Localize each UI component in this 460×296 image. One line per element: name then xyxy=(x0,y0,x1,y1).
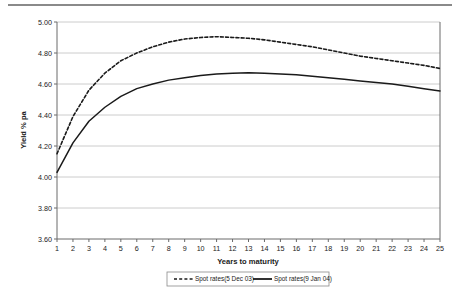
y-tick-label: 4.20 xyxy=(38,142,52,151)
chart-svg: 3.603.804.004.204.404.604.805.00 1234567… xyxy=(0,0,460,296)
series-line-2 xyxy=(57,73,440,173)
x-tick-label: 9 xyxy=(183,244,187,253)
y-tick-label: 5.00 xyxy=(38,18,52,27)
x-tick-label: 4 xyxy=(103,244,107,253)
legend-label-2: Spot rates(9 Jan 04) xyxy=(274,275,332,283)
series-line-1 xyxy=(57,37,440,154)
x-tick-label: 23 xyxy=(404,244,412,253)
x-tick-label: 11 xyxy=(213,244,220,253)
x-tick-label: 18 xyxy=(324,244,332,253)
x-tick-label: 6 xyxy=(135,244,139,253)
x-axis-title: Years to maturity xyxy=(217,257,279,266)
plot-frame xyxy=(57,22,440,239)
y-axis-title: Yield % pa xyxy=(19,110,28,148)
x-tick-label: 21 xyxy=(372,244,380,253)
x-tick-labels: 1234567891011121314151617181920212223242… xyxy=(55,244,444,253)
x-tick-label: 12 xyxy=(229,244,237,253)
y-tick-label: 4.40 xyxy=(38,111,52,120)
legend-label-1: Spot rates(5 Dec 03) xyxy=(195,275,254,283)
y-tick-label: 4.00 xyxy=(38,173,52,182)
x-tick-label: 5 xyxy=(119,244,123,253)
x-tick-label: 8 xyxy=(167,244,171,253)
x-tick-label: 10 xyxy=(197,244,205,253)
x-tick-label: 7 xyxy=(151,244,155,253)
legend: Spot rates(5 Dec 03)Spot rates(9 Jan 04) xyxy=(167,272,332,286)
y-tick-label: 3.60 xyxy=(38,235,52,244)
x-tick-label: 20 xyxy=(356,244,364,253)
legend-entries: Spot rates(5 Dec 03)Spot rates(9 Jan 04) xyxy=(174,275,332,283)
x-tick-label: 25 xyxy=(436,244,444,253)
yield-curve-chart: 3.603.804.004.204.404.604.805.00 1234567… xyxy=(0,0,460,296)
y-tick-labels: 3.603.804.004.204.404.604.805.00 xyxy=(38,18,52,244)
y-tick-label: 4.60 xyxy=(38,80,52,89)
x-tick-label: 3 xyxy=(87,244,91,253)
x-tick-label: 13 xyxy=(245,244,253,253)
x-tick-label: 2 xyxy=(71,244,75,253)
x-tick-label: 1 xyxy=(55,244,59,253)
gridlines xyxy=(57,22,440,208)
x-tick-label: 17 xyxy=(308,244,316,253)
x-tick-label: 19 xyxy=(340,244,348,253)
x-tick-label: 16 xyxy=(292,244,300,253)
x-tick-label: 24 xyxy=(420,244,428,253)
y-tick-label: 3.80 xyxy=(38,204,52,213)
x-tick-label: 14 xyxy=(260,244,268,253)
series-lines xyxy=(57,37,440,173)
y-tick-label: 4.80 xyxy=(38,49,52,58)
x-tick-label: 15 xyxy=(276,244,284,253)
x-tick-label: 22 xyxy=(388,244,396,253)
